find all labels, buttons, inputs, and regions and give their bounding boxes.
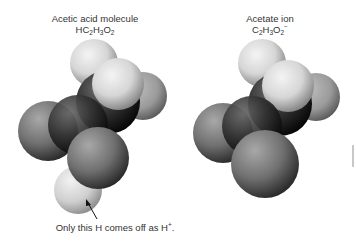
edge-mark <box>352 145 354 167</box>
molecule-models <box>0 0 356 244</box>
proton-annotation: Only this H comes off as H+. <box>45 222 185 233</box>
hydroxyl-oxygen-atom <box>67 127 129 189</box>
hydrogen-atom-front <box>92 58 144 110</box>
oxygen-atom-bottom <box>231 130 299 198</box>
annotation-suffix: . <box>172 222 175 233</box>
acetic-acid-model <box>18 39 167 219</box>
annotation-text: Only this H comes off as H <box>56 222 168 233</box>
acetate-ion-model <box>193 39 340 198</box>
